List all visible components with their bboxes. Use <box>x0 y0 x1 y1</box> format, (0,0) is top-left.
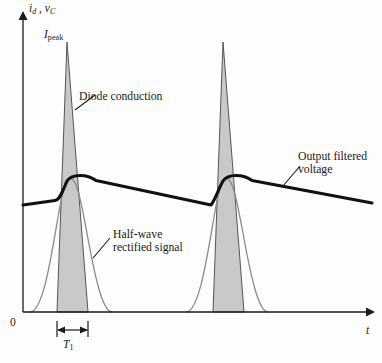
output-filtered-voltage-label: Output filteredvoltage <box>298 150 367 177</box>
i-peak-label-sub: peak <box>48 33 64 42</box>
half-wave-rectified-label-line1: Half-wave <box>113 228 162 241</box>
y-axis-label-separator: , <box>36 2 45 14</box>
t1-label-sub: 1 <box>69 343 73 352</box>
half-wave-rectified-label-line2: rectified signal <box>113 241 183 254</box>
waveform-plot <box>0 0 382 363</box>
leader-half-wave <box>93 238 110 258</box>
y-axis-arrowhead <box>19 11 28 20</box>
origin-label: 0 <box>10 316 16 329</box>
t1-dimension-marker <box>57 321 88 337</box>
x-axis-label: t <box>366 324 369 337</box>
i-peak-label: Ipeak <box>44 28 63 42</box>
t1-arrowhead-right <box>80 327 88 334</box>
y-axis-label-voltage-sub: C <box>50 7 55 16</box>
half-wave-rectified-label: Half-waverectified signal <box>113 228 183 255</box>
t1-arrowhead-left <box>57 327 65 334</box>
x-axis-arrowhead <box>366 308 375 317</box>
callout-leader-lines <box>75 95 300 258</box>
t1-label: T1 <box>63 338 74 352</box>
y-axis-label: id , vC <box>29 2 55 16</box>
diode-conduction-label: Diode conduction <box>79 90 162 103</box>
output-filtered-voltage-label-line2: voltage <box>298 163 332 176</box>
output-filtered-voltage-label-line1: Output filtered <box>298 150 367 163</box>
figure-container: id , vC Ipeak Diode conduction Output fi… <box>0 0 382 363</box>
